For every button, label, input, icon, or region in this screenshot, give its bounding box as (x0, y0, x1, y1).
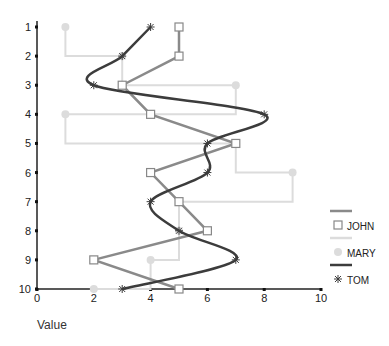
circle-icon (147, 256, 155, 264)
y-tick-label: 7 (25, 196, 31, 208)
y-tick-label: 6 (25, 167, 31, 179)
circle-icon (61, 23, 69, 31)
legend-label: MARY (347, 248, 376, 259)
square-icon (232, 139, 240, 147)
x-tick-label: 8 (261, 292, 267, 304)
y-tick-label: 2 (25, 50, 31, 62)
star-icon (118, 52, 126, 60)
square-icon (175, 52, 183, 60)
star-icon (147, 198, 155, 206)
circle-icon (334, 248, 342, 256)
square-icon (90, 256, 98, 264)
x-tick-label: 2 (91, 292, 97, 304)
y-tick-label: 3 (25, 79, 31, 91)
legend-item-john: JOHN (330, 211, 374, 232)
legend-item-tom: TOM (330, 265, 369, 286)
legend-label: TOM (347, 275, 369, 286)
x-tick-label: 10 (315, 292, 327, 304)
square-icon (118, 81, 126, 89)
y-tick-label: 1 (25, 21, 31, 33)
star-icon (118, 285, 126, 293)
y-tick-label: 5 (25, 137, 31, 149)
circle-icon (232, 81, 240, 89)
circle-icon (90, 285, 98, 293)
series-layer (61, 23, 296, 293)
legend-item-mary: MARY (330, 238, 376, 259)
y-tick-label: 10 (19, 283, 31, 295)
square-icon (334, 221, 342, 229)
x-axis-label: Value (37, 318, 67, 332)
star-icon (334, 275, 342, 283)
square-icon (147, 110, 155, 118)
axes: 123456789100246810 (19, 21, 327, 304)
legend-label: JOHN (347, 221, 374, 232)
square-icon (203, 227, 211, 235)
square-icon (147, 169, 155, 177)
x-tick-label: 4 (148, 292, 154, 304)
star-icon (260, 110, 268, 118)
star-icon (147, 23, 155, 31)
x-tick-label: 0 (34, 292, 40, 304)
square-icon (175, 198, 183, 206)
chart-area: 123456789100246810 JOHNMARYTOM (0, 0, 389, 346)
series-mary (61, 23, 296, 293)
x-tick-label: 6 (204, 292, 210, 304)
star-icon (232, 256, 240, 264)
y-tick-label: 8 (25, 225, 31, 237)
series-tom (87, 23, 268, 293)
star-icon (90, 81, 98, 89)
circle-icon (289, 169, 297, 177)
legend: JOHNMARYTOM (330, 211, 376, 286)
y-tick-label: 9 (25, 254, 31, 266)
star-icon (175, 227, 183, 235)
star-icon (203, 169, 211, 177)
y-tick-label: 4 (25, 108, 31, 120)
square-icon (175, 23, 183, 31)
circle-icon (61, 110, 69, 118)
star-icon (203, 139, 211, 147)
square-icon (175, 285, 183, 293)
